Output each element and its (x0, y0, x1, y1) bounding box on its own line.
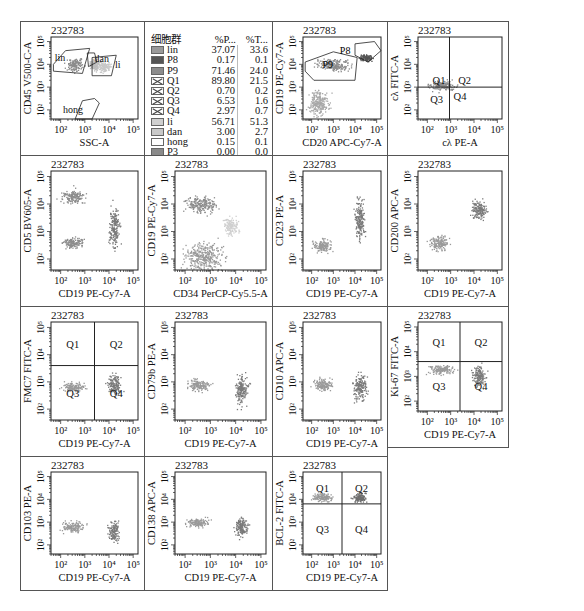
x-axis-label: CD19 PE-Cy7-A (184, 572, 256, 583)
gate-label: P9 (323, 59, 334, 70)
y-tick-label: 10³ (160, 516, 170, 529)
x-tick-label: 10² (305, 275, 318, 286)
scatter-plot: 232783Q1Q2Q3Q410²10³10⁴10⁵10²10³10⁴10⁵cλ… (388, 22, 510, 157)
axis-ticks (47, 477, 133, 558)
x-tick-label: 10² (421, 416, 434, 427)
x-tick-label: 10² (421, 275, 434, 286)
x-tick-label: 10³ (327, 425, 340, 436)
y-axis-label: CD23 PE-A (274, 195, 285, 246)
x-tick-label: 10⁵ (491, 416, 505, 427)
x-tick-label: 10³ (444, 124, 457, 135)
y-tick-label: 10² (36, 539, 46, 552)
data-points (60, 520, 120, 544)
y-tick-label: 10⁴ (403, 197, 413, 211)
axis-ticks (414, 177, 497, 275)
y-tick-label: 10⁴ (288, 492, 298, 506)
scatter-plot: 23278310²10³10⁴10⁵10²10³10⁴10⁵CD19 PE-Cy… (145, 457, 274, 592)
y-tick-label: 10⁴ (36, 57, 46, 70)
y-axis-label: CD19 PE-Cy7-A (274, 42, 285, 114)
y-axis-label: CD103 PE-A (22, 484, 33, 541)
plot-frame (418, 171, 502, 270)
x-axis-label: CD19 PE-Cy7-A (424, 429, 496, 440)
x-axis-label: SSC-A (80, 137, 110, 148)
y-tick-label: 10² (36, 104, 46, 117)
population-swatch-icon (151, 128, 164, 136)
y-tick-label: 10⁵ (403, 170, 413, 183)
x-axis-label: CD19 PE-Cy7-A (58, 438, 130, 449)
x-tick-label: 10⁴ (102, 425, 116, 436)
y-tick-label: 10² (403, 253, 413, 266)
plot-title: 232783 (175, 158, 209, 170)
y-tick-label: 10⁵ (160, 470, 170, 483)
y-axis-label: CD10 APC-A (274, 341, 285, 400)
y-tick-label: 10² (403, 104, 413, 117)
y-tick-label: 10³ (36, 225, 46, 238)
scatter-plot: 23278310²10³10⁴10⁵10²10³10⁴10⁵CD19 PE-Cy… (145, 307, 274, 458)
x-tick-label: 10⁴ (348, 425, 362, 436)
y-tick-label: 10⁵ (288, 321, 298, 334)
x-tick-label: 10⁵ (254, 425, 268, 436)
legend-row: Q42.970.7 (151, 106, 268, 116)
population-swatch-icon (151, 56, 164, 64)
x-tick-label: 10⁵ (370, 124, 384, 135)
y-tick-label: 10⁴ (288, 57, 298, 70)
x-tick-label: 10³ (78, 425, 91, 436)
plot-cell-cd138-cd19: 23278310²10³10⁴10⁵10²10³10⁴10⁵CD19 PE-Cy… (144, 456, 273, 591)
y-tick-label: 10² (288, 253, 298, 266)
y-tick-label: 10⁵ (288, 170, 298, 183)
quadrant-label: Q4 (475, 381, 489, 392)
quadrant-label: Q1 (433, 337, 446, 348)
x-axis-label: CD20 APC-Cy7-A (302, 137, 382, 148)
plot-cell-cd19-cd20: 232783P8P910²10³10⁴10⁵10²10³10⁴10⁵CD20 A… (272, 21, 388, 156)
plot-frame (51, 171, 138, 270)
x-tick-label: 10² (179, 559, 192, 570)
population-legend: 细胞群 %P... %T... lin37.0733.6P80.170.1P97… (144, 21, 273, 156)
y-axis-label: CD79b PE-A (146, 342, 157, 399)
y-tick-label: 10³ (403, 81, 413, 94)
x-tick-label: 10³ (444, 416, 457, 427)
y-tick-label: 10² (160, 403, 170, 416)
x-tick-label: 10² (305, 425, 318, 436)
x-tick-label: 10⁵ (370, 275, 384, 286)
x-axis-label: CD19 PE-Cy7-A (306, 572, 378, 583)
data-points (181, 195, 241, 271)
x-axis-label: CD19 PE-Cy7-A (306, 288, 378, 299)
y-tick-label: 10⁵ (36, 321, 46, 334)
plot-cell-cd10-cd19: 23278310²10³10⁴10⁵10²10³10⁴10⁵CD19 PE-Cy… (272, 306, 388, 457)
plot-cell-cd5-cd19: 23278310²10³10⁴10⁵10²10³10⁴10⁵CD19 PE-Cy… (20, 155, 145, 307)
y-tick-label: 10⁴ (36, 197, 46, 211)
axis-ticks (299, 42, 377, 123)
quadrant-label: Q3 (430, 94, 443, 105)
y-tick-label: 10³ (288, 516, 298, 529)
y-axis-label: FMC7 FITC-A (22, 339, 33, 403)
x-tick-label: 10² (54, 559, 67, 570)
x-tick-label: 10⁴ (467, 275, 481, 286)
quadrant-label: Q2 (475, 337, 488, 348)
x-tick-label: 10² (54, 275, 67, 286)
x-tick-label: 10⁵ (126, 559, 139, 570)
x-tick-label: 10⁴ (348, 559, 362, 570)
x-axis-label: CD19 PE-Cy7-A (424, 288, 496, 299)
x-tick-label: 10² (179, 275, 192, 286)
quadrant-label: Q1 (316, 483, 329, 494)
plot-frame (51, 472, 138, 554)
x-tick-label: 10² (305, 559, 318, 570)
plot-cell-cd19-cd34: 23278310²10³10⁴10⁵10²10³10⁴10⁵CD34 PerCP… (144, 155, 273, 307)
x-tick-label: 10² (179, 425, 192, 436)
y-tick-label: 10⁵ (288, 35, 298, 48)
y-tick-label: 10² (160, 253, 170, 266)
y-tick-label: 10⁵ (160, 170, 170, 183)
quadrant-label: Q3 (66, 388, 79, 399)
y-tick-label: 10³ (288, 376, 298, 389)
x-tick-label: 10² (54, 425, 67, 436)
plot-title: 232783 (175, 309, 209, 321)
y-tick-label: 10³ (36, 516, 46, 529)
x-tick-label: 10⁴ (102, 124, 116, 135)
scatter-plot: 23278310²10³10⁴10⁵10²10³10⁴10⁵CD34 PerCP… (145, 156, 274, 308)
x-tick-label: 10² (421, 124, 434, 135)
y-tick-label: 10⁴ (160, 197, 170, 211)
scatter-plot: 23278310²10³10⁴10⁵10²10³10⁴10⁵CD19 PE-Cy… (388, 156, 510, 308)
y-tick-label: 10⁴ (403, 345, 413, 359)
y-tick-label: 10² (403, 395, 413, 408)
x-tick-label: 10⁴ (229, 425, 243, 436)
